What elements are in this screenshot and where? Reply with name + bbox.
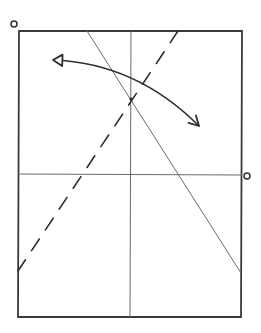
- diagram-canvas: [0, 0, 261, 333]
- intersection-dot-icon: [129, 97, 132, 100]
- fold-diagram: [0, 0, 261, 333]
- reference-point-right-icon: [244, 173, 250, 179]
- reference-point-top-left-icon: [11, 21, 17, 27]
